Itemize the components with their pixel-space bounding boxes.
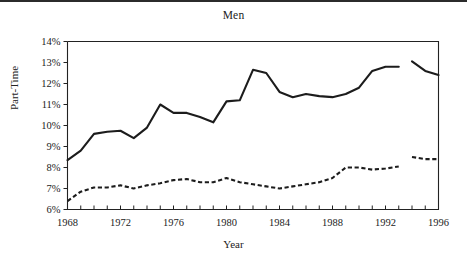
y-tick-label: 9% — [47, 141, 61, 152]
x-tick-label: 1992 — [375, 217, 396, 228]
plot-area: 6%7%8%9%10%11%12%13%14% 1968197219761980… — [0, 0, 467, 267]
y-tick-label: 8% — [47, 162, 61, 173]
y-tick-label: 14% — [41, 36, 61, 47]
y-tick-label: 13% — [41, 57, 61, 68]
chart-figure: Men Part-Time Year 6%7%8%9%10%11%12%13%1… — [0, 0, 467, 267]
x-tick-label: 1984 — [269, 217, 291, 228]
y-tick-label: 10% — [41, 120, 61, 131]
y-tick-label: 12% — [41, 78, 61, 89]
y-tick-label: 11% — [42, 99, 61, 110]
y-tick-label: 7% — [47, 183, 61, 194]
y-tick-labels-group: 6%7%8%9%10%11%12%13%14% — [41, 36, 61, 215]
x-tick-label: 1968 — [57, 217, 78, 228]
y-tick-label: 6% — [47, 204, 61, 215]
x-tick-label: 1996 — [428, 217, 449, 228]
x-tick-label: 1980 — [216, 217, 237, 228]
x-tick-label: 1976 — [163, 217, 184, 228]
data-series-group — [68, 61, 439, 201]
x-tick-labels-group: 19681972197619801984198819921996 — [57, 217, 449, 228]
x-tick-label: 1972 — [110, 217, 131, 228]
x-tick-label: 1988 — [322, 217, 343, 228]
series-line-dashed — [412, 157, 439, 159]
series-line-solid — [412, 61, 439, 75]
series-line-solid — [68, 67, 399, 160]
series-line-dashed — [68, 166, 399, 201]
